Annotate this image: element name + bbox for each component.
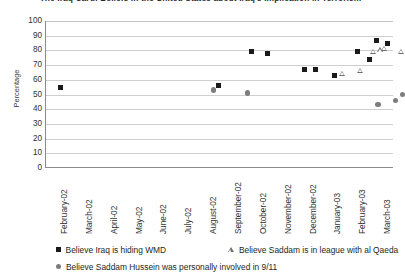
chart-legend: Believe Iraq is hiding WMD Believe Sadda… [0,241,401,275]
data-point-square [265,51,270,56]
legend-item-nine-eleven[interactable]: Believe Saddam Hussein was personally in… [56,262,277,271]
data-point-square [385,41,390,46]
gridline [46,95,393,96]
x-axis-tick: August-02 [210,197,218,234]
x-axis-tick: December-02 [310,184,318,234]
data-point-square [58,85,63,90]
gridline [46,124,393,125]
y-axis-tick: 80 [18,46,42,54]
plot-area [45,21,393,168]
legend-label-wmd: Believe Iraq is hiding WMD [66,245,167,255]
gridline [46,65,393,66]
x-axis-tick-labels: February-02March-02April-02May-02June-02… [45,168,393,238]
data-point-square [302,67,307,72]
data-point-circle [211,87,216,92]
data-point-square [332,73,337,78]
data-point-square [216,83,221,88]
y-axis-tick: 20 [18,135,42,143]
y-axis-tick: 10 [18,149,42,157]
gridline [46,36,393,37]
data-point-circle [393,98,398,103]
data-point-circle [375,102,380,107]
y-axis-tick: 40 [18,105,42,113]
gridline [46,80,393,81]
y-axis-tick: 30 [18,120,42,128]
square-marker-icon [56,247,61,252]
gridline [46,109,393,110]
x-axis-tick: March-03 [384,199,392,234]
data-point-triangle [398,49,404,54]
x-axis-tick: October-02 [260,193,268,234]
legend-item-wmd[interactable]: Believe Iraq is hiding WMD [56,245,166,254]
x-axis-tick: January-03 [334,193,342,234]
y-axis-tick-labels: 1009080706050403020100 [14,0,42,275]
data-point-square [367,57,372,62]
data-point-circle [400,92,405,97]
y-axis-tick: 100 [18,17,42,25]
gridline [46,139,393,140]
x-axis-tick: March-02 [86,199,94,234]
data-point-circle [245,90,250,95]
gridline [46,21,393,22]
triangle-marker-icon [228,247,234,252]
y-axis-tick: 70 [18,61,42,69]
data-point-triangle [339,71,345,76]
data-point-square [313,67,318,72]
x-axis-tick: June-02 [160,204,168,234]
gridline [46,153,393,154]
x-axis-tick: May-02 [136,207,144,234]
data-point-triangle [357,68,363,73]
y-axis-tick: 90 [18,32,42,40]
data-point-square [374,38,379,43]
x-axis-tick: November-02 [285,184,293,234]
x-axis-tick: February-03 [359,189,367,234]
x-axis-tick: July-02 [185,208,193,234]
legend-label-nine-eleven: Believe Saddam Hussein was personally in… [66,262,277,272]
circle-marker-icon [56,264,61,269]
x-axis-tick: April-02 [111,206,119,234]
legend-item-qaeda[interactable]: Believe Saddam is in league with al Qaed… [228,245,398,254]
legend-label-qaeda: Believe Saddam is in league with al Qaed… [239,245,398,255]
data-point-triangle [370,49,376,54]
y-axis-tick: 60 [18,76,42,84]
x-axis-tick: September-02 [235,182,243,234]
chart-title: The Iraq Card: Beliefs in the United Sta… [0,0,401,4]
x-axis-tick: February-02 [61,189,69,234]
gridline [46,50,393,51]
y-axis-tick: 50 [18,91,42,99]
data-point-square [355,49,360,54]
data-point-triangle [381,46,387,51]
data-point-square [249,49,254,54]
y-axis-tick: 0 [18,164,42,172]
